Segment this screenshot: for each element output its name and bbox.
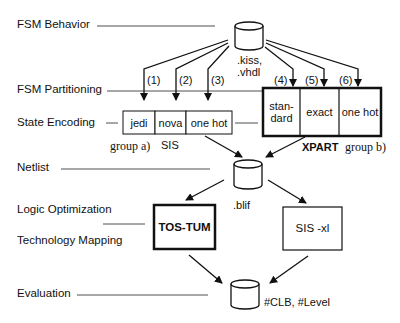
path-label-1: (1): [147, 74, 160, 86]
partition-standard-line1: stan-: [263, 100, 300, 112]
group-a-tool: SIS: [161, 139, 179, 151]
stage-fsm-behavior: FSM Behavior: [17, 18, 90, 30]
path-label-2: (2): [179, 74, 192, 86]
stage-fsm-partitioning: FSM Partitioning: [17, 83, 102, 95]
group-b-label: group b): [345, 140, 386, 155]
result-database-icon: [231, 280, 259, 309]
partition-onehot-b: one hot: [339, 106, 381, 118]
input-db-label-line2: .vhdl: [237, 66, 262, 78]
path-label-4: (4): [274, 74, 287, 86]
path-label-6: (6): [339, 74, 352, 86]
encoding-jedi: jedi: [123, 117, 155, 129]
path-label-5: (5): [305, 74, 318, 86]
netlist-database-icon: [234, 160, 262, 189]
path-label-3: (3): [211, 74, 224, 86]
encoding-onehot-a: one hot: [186, 117, 232, 129]
result-db-label: #CLB, #Level: [264, 296, 330, 308]
input-database-icon: [235, 22, 263, 50]
partition-exact: exact: [300, 106, 339, 118]
stage-logic-optimization: Logic Optimization: [17, 203, 112, 215]
optimizer-tos-tum: TOS-TUM: [154, 221, 215, 233]
netlist-db-label: .blif: [233, 199, 250, 211]
encoding-nova: nova: [155, 117, 186, 129]
partition-standard-line2: dard: [263, 112, 300, 124]
stage-netlist: Netlist: [17, 161, 49, 173]
input-db-label: .kiss, .vhdl: [237, 54, 262, 78]
stage-state-encoding: State Encoding: [17, 116, 95, 128]
diagram-canvas: [0, 0, 400, 323]
optimizer-sis-xl: SIS -xl: [283, 222, 342, 234]
stage-evaluation: Evaluation: [17, 287, 71, 299]
group-a-label: group a): [110, 139, 150, 154]
input-db-label-line1: .kiss,: [237, 54, 262, 66]
stage-technology-mapping: Technology Mapping: [17, 234, 123, 246]
group-b-tool: XPART: [302, 141, 338, 153]
partition-standard: stan- dard: [263, 100, 300, 124]
